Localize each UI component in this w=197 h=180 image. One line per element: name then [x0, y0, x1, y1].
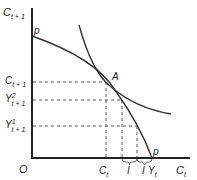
indifference-curve	[79, 25, 171, 114]
x-axis-label: Ct	[176, 164, 187, 178]
x-tick-i2: I	[142, 165, 145, 176]
production-possibility-curve	[32, 36, 152, 158]
curve-label-p-bottom: p	[152, 146, 159, 157]
x-tick-y-t: Yt	[148, 165, 158, 178]
y-tick-y1: Y1t + 1	[5, 118, 26, 133]
y-tick-c-t1: Ct + 1	[5, 75, 26, 88]
curve-label-p-top: p	[33, 25, 40, 36]
y-axis-label: Ct + 1	[3, 6, 25, 20]
tangent-point-label: A	[111, 71, 119, 82]
y-tick-y2: Y2t + 1	[5, 92, 26, 107]
intertemporal-choice-diagram: Ct + 1 Ct O p p A Ct + 1 Y2t + 1 Y1t + 1…	[0, 0, 197, 180]
origin-label: O	[19, 163, 28, 175]
x-tick-i1: I	[127, 165, 130, 176]
x-tick-c-t: Ct	[99, 165, 109, 178]
